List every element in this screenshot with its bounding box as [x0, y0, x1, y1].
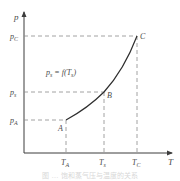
equation-label: ps = f(Ts) [45, 68, 76, 78]
saturation-curve [66, 36, 137, 120]
point-c-label: C [140, 32, 146, 41]
x-axis-label: T [168, 157, 174, 167]
pa-label: pA [9, 116, 18, 126]
ps-label: ps [9, 88, 17, 98]
figure-caption: 图 … 饱和蒸气压与温度的关系 [0, 170, 180, 181]
y-axis-label: p [13, 12, 19, 22]
point-b-label: B [107, 91, 112, 100]
ta-label: TA [61, 158, 69, 168]
pc-label: pC [9, 32, 19, 42]
point-a-label: A [57, 124, 63, 133]
ts-label: Ts [99, 158, 106, 168]
pressure-temperature-diagram: p T pC ps pA TA Ts TC A B C ps = f(Ts) [0, 0, 180, 181]
tc-label: TC [132, 158, 141, 168]
